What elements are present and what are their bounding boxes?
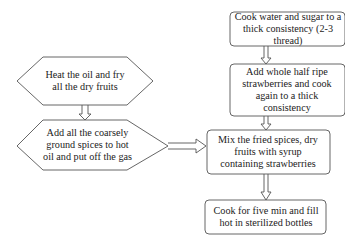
arrow-down-3 bbox=[261, 174, 271, 200]
step-add-strawberries-text: Add whole half ripe strawberries and coo… bbox=[236, 66, 338, 114]
arrow-down-left bbox=[79, 105, 91, 120]
step-mix-text: Mix the fried spices, dry fruits with sy… bbox=[212, 132, 324, 172]
step-heat-oil-text: Heat the oil and fry all the dry fruits bbox=[40, 60, 130, 102]
step-add-spices-text: Add all the coarsely ground spices to ho… bbox=[40, 123, 135, 167]
arrow-right bbox=[168, 139, 206, 153]
arrow-down-1 bbox=[261, 46, 271, 64]
step-cook-fill-text: Cook for five min and fill hot in steril… bbox=[210, 201, 322, 233]
step-cook-sugar-text: Cook water and sugar to a thick consiste… bbox=[233, 13, 343, 45]
arrow-down-2 bbox=[261, 116, 271, 130]
